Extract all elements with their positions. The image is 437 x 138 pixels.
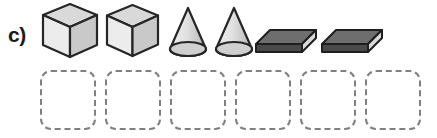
worksheet-exercise-c: c)	[0, 0, 437, 138]
answer-box-5[interactable]	[300, 70, 356, 130]
solid-cube-1	[40, 2, 100, 60]
answer-box-2[interactable]	[105, 70, 161, 130]
answer-boxes-row	[0, 66, 437, 138]
solid-rectangular-prism-2	[320, 28, 384, 58]
answer-box-3[interactable]	[170, 70, 226, 130]
answer-box-1[interactable]	[40, 70, 96, 130]
answer-box-6[interactable]	[365, 70, 421, 130]
answer-box-4[interactable]	[235, 70, 291, 130]
solid-cube-2	[104, 3, 161, 59]
solid-cone-1	[166, 6, 210, 59]
solid-cone-2	[212, 6, 256, 59]
solid-rectangular-prism-1	[254, 28, 318, 58]
solids-row	[0, 0, 437, 64]
